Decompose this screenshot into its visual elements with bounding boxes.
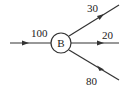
node-b: B	[51, 33, 71, 53]
edge-outgoing-middle: 20	[71, 29, 119, 46]
edge-outgoing-middle-label: 20	[102, 29, 114, 41]
flow-diagram: 100 30 20 80 B	[0, 0, 130, 93]
edge-incoming-label: 100	[31, 27, 48, 39]
edge-outgoing-top-label: 30	[87, 2, 99, 14]
arrowhead-icon	[97, 41, 104, 46]
arrowhead-icon	[97, 14, 104, 20]
node-label: B	[57, 37, 64, 49]
arrowhead-icon	[22, 41, 29, 46]
edge-outgoing-bottom: 80	[69, 50, 119, 87]
edge-incoming: 100	[10, 27, 51, 46]
edge-outgoing-bottom-label: 80	[86, 75, 98, 87]
